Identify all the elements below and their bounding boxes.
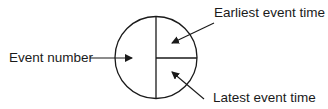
event-number-label: Event number bbox=[9, 51, 93, 65]
latest-event-time-label: Latest event time bbox=[213, 91, 316, 105]
latest-time-arrow bbox=[172, 72, 204, 99]
earliest-event-time-label: Earliest event time bbox=[214, 6, 325, 20]
